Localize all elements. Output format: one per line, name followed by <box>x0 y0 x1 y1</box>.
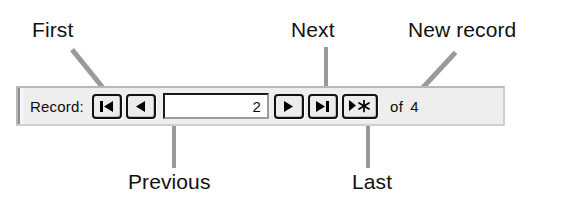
last-record-icon <box>315 100 330 113</box>
record-navigation-bar: Record: <box>16 86 505 126</box>
last-record-button[interactable] <box>308 94 338 119</box>
annotation-label-first: First <box>32 18 73 42</box>
total-records-value: 4 <box>410 98 419 115</box>
leader-line-next <box>324 47 328 88</box>
first-record-button[interactable] <box>92 94 122 119</box>
previous-record-button[interactable] <box>126 94 156 119</box>
leader-line-previous <box>172 126 176 168</box>
annotation-label-new-record: New record <box>408 18 516 42</box>
record-number-input[interactable] <box>163 93 269 119</box>
new-record-button[interactable] <box>342 94 378 119</box>
first-record-icon <box>99 100 114 113</box>
leader-line-last <box>366 126 370 168</box>
annotation-label-last: Last <box>352 170 392 194</box>
of-label: of <box>390 98 403 115</box>
bar-grip-handle <box>18 88 23 124</box>
next-record-icon <box>282 100 295 113</box>
record-label: Record: <box>30 98 84 115</box>
previous-record-icon <box>134 100 147 113</box>
annotation-label-next: Next <box>291 18 335 42</box>
screenshot-root: First Next New record Previous Last Reco… <box>0 0 574 212</box>
next-record-button[interactable] <box>274 94 304 119</box>
annotation-label-previous: Previous <box>128 170 211 194</box>
record-total-group: of4 <box>390 98 419 115</box>
new-record-icon <box>348 99 372 113</box>
